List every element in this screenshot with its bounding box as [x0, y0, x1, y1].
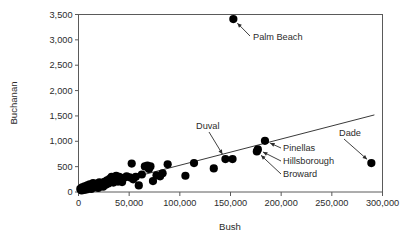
point-annotation-dade: Dade [339, 128, 361, 138]
data-point [128, 160, 136, 168]
data-point [135, 181, 143, 189]
data-point [181, 172, 189, 180]
x-tick-label: 0 [76, 198, 81, 208]
data-point [138, 170, 146, 178]
y-tick-label: 2,500 [50, 60, 73, 70]
x-axis-title: Bush [219, 221, 241, 232]
y-tick-label: 1,500 [50, 111, 73, 121]
point-annotation-duval: Duval [196, 121, 220, 131]
data-point [228, 155, 236, 163]
y-tick-label: 500 [57, 162, 72, 172]
scatter-chart: 05001,0001,5002,0002,5003,0003,500 050,0… [0, 0, 415, 238]
point-annotation-pinellas: Pinellas [283, 143, 316, 153]
data-point [146, 162, 154, 170]
x-tick-label: 300,000 [366, 198, 399, 208]
data-point [190, 159, 198, 167]
data-point-labeled [367, 159, 375, 167]
y-tick-label: 3,500 [50, 10, 73, 20]
data-point-labeled [254, 145, 262, 153]
data-point [159, 169, 167, 177]
y-tick-label: 3,000 [50, 35, 73, 45]
data-point [164, 160, 172, 168]
y-axis-title: Buchanan [8, 81, 19, 124]
y-tick-label: 1,000 [50, 136, 73, 146]
x-tick-label: 50,000 [115, 198, 143, 208]
y-tick-label: 2,000 [50, 86, 73, 96]
chart-canvas: 05001,0001,5002,0002,5003,0003,500 050,0… [0, 0, 415, 238]
data-point-labeled [261, 137, 269, 145]
y-tick-label: 0 [67, 187, 72, 197]
point-annotation-palm-beach: Palm Beach [253, 32, 303, 42]
data-point-labeled [229, 15, 237, 23]
data-point-labeled [221, 155, 229, 163]
x-tick-label: 100,000 [163, 198, 196, 208]
data-point [210, 164, 218, 172]
point-annotation-broward: Broward [283, 169, 317, 179]
x-tick-label: 250,000 [315, 198, 348, 208]
x-tick-label: 200,000 [265, 198, 298, 208]
point-annotation-hillsborough: Hillsborough [283, 156, 334, 166]
x-tick-label: 150,000 [214, 198, 247, 208]
